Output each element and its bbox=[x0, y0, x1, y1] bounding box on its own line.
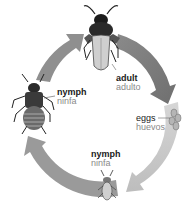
label-nymph-large-es: ninfa bbox=[57, 97, 87, 106]
label-nymph-large: nymph ninfa bbox=[57, 88, 87, 106]
cycle-arrows bbox=[0, 0, 189, 207]
label-adult-es: adulto bbox=[116, 83, 141, 92]
label-nymph-small: nymph ninfa bbox=[91, 150, 121, 168]
label-eggs: eggs huevos bbox=[136, 114, 165, 132]
large-nymph-insect-icon bbox=[12, 74, 55, 134]
label-adult: adult adulto bbox=[116, 74, 141, 92]
adult-insect-icon bbox=[84, 6, 120, 70]
label-nymph-small-es: ninfa bbox=[91, 159, 121, 168]
label-eggs-es: huevos bbox=[136, 123, 165, 132]
life-cycle-diagram: adult adulto eggs huevos nymph ninfa nym… bbox=[0, 0, 189, 207]
adult-pointer-line bbox=[112, 64, 116, 70]
arrow-adult-to-eggs bbox=[116, 34, 176, 104]
